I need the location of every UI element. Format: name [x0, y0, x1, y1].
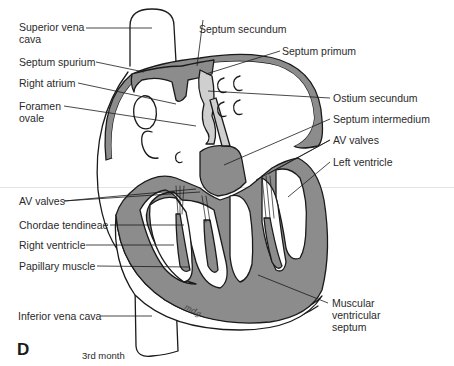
- label-superior-vena-cava: Superior vena cava: [19, 21, 84, 45]
- septum-intermedium-shape: [200, 146, 246, 196]
- panel-letter: D: [17, 340, 29, 360]
- superior-vena-cava-shape: [130, 9, 176, 66]
- label-right-atrium: Right atrium: [19, 77, 76, 89]
- heart-diagram: Superior vena cava Septum spurium Right …: [0, 0, 454, 366]
- label-right-ventricle: Right ventricle: [19, 239, 86, 251]
- label-left-ventricle: Left ventricle: [333, 156, 393, 168]
- caption-3rd-month: 3rd month: [82, 350, 125, 361]
- label-septum-secundum: Septum secundum: [199, 23, 287, 35]
- label-muscular-ventricular-septum: Muscular ventricular septum: [332, 297, 380, 333]
- label-septum-intermedium: Septum intermedium: [333, 113, 430, 125]
- label-foramen-ovale: Foramen ovale: [19, 100, 61, 124]
- label-septum-primum: Septum primum: [282, 45, 356, 57]
- label-septum-spurium: Septum spurium: [19, 56, 95, 68]
- label-av-valves-right: AV valves: [333, 134, 379, 146]
- label-inferior-vena-cava: Inferior vena cava: [18, 310, 101, 322]
- label-chordae-tendineae: Chordae tendineae: [19, 219, 108, 231]
- label-papillary-muscle: Papillary muscle: [19, 260, 95, 272]
- label-av-valves-left: AV valves: [19, 195, 65, 207]
- label-ostium-secundum: Ostium secundum: [333, 92, 418, 104]
- mid-cavity: [230, 195, 253, 282]
